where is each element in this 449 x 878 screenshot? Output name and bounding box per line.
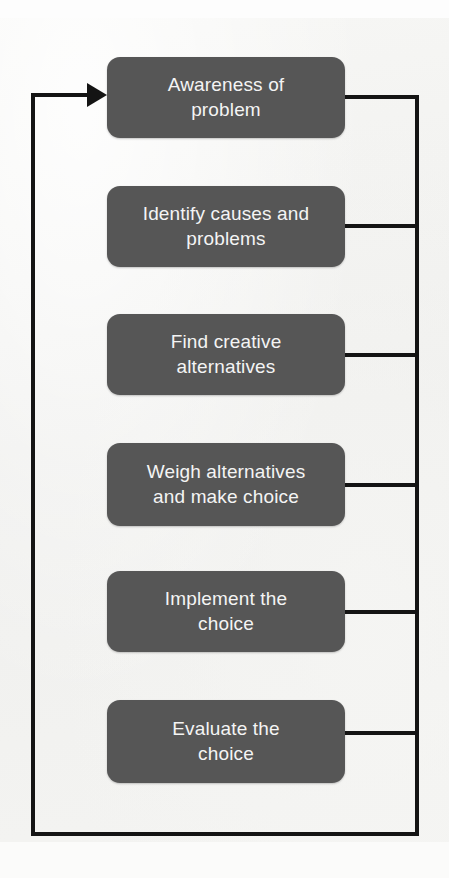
connector-stub-step-1 xyxy=(344,95,419,99)
bottom-return-line xyxy=(31,832,419,836)
connector-stub-step-3 xyxy=(344,353,419,357)
flow-node-step-5[interactable]: Implement the choice xyxy=(107,571,345,652)
connector-stub-step-5 xyxy=(344,610,419,614)
top-margin xyxy=(0,0,449,18)
flow-node-label: Find creative alternatives xyxy=(161,330,292,379)
connector-stub-step-2 xyxy=(344,224,419,228)
flow-node-step-6[interactable]: Evaluate the choice xyxy=(107,700,345,783)
flow-node-label: Awareness of problem xyxy=(158,73,295,122)
left-vertical-return-line xyxy=(31,93,35,836)
bottom-margin xyxy=(0,842,449,878)
flow-node-step-4[interactable]: Weigh alternatives and make choice xyxy=(107,443,345,526)
flow-node-label: Weigh alternatives and make choice xyxy=(137,460,316,509)
feedback-arrow-icon xyxy=(87,83,107,107)
connector-stub-step-4 xyxy=(344,483,419,487)
feedback-horizontal-line xyxy=(31,93,89,97)
flowchart-canvas: Awareness of problem Identify causes and… xyxy=(0,0,449,878)
flow-node-label: Implement the choice xyxy=(155,587,297,636)
flow-node-step-3[interactable]: Find creative alternatives xyxy=(107,314,345,395)
flow-node-step-1[interactable]: Awareness of problem xyxy=(107,57,345,138)
flow-node-label: Identify causes and problems xyxy=(133,202,320,251)
connector-stub-step-6 xyxy=(344,731,419,735)
right-vertical-rail xyxy=(415,95,419,836)
flow-node-step-2[interactable]: Identify causes and problems xyxy=(107,186,345,267)
flow-node-label: Evaluate the choice xyxy=(162,717,289,766)
